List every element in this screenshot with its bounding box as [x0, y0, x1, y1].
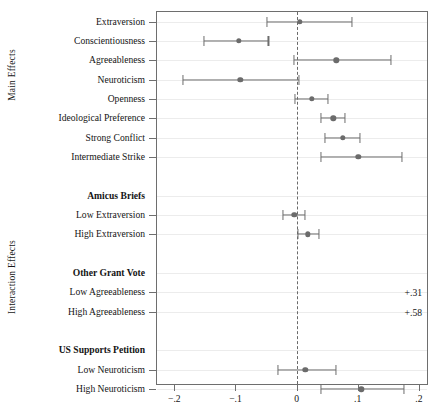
- confidence-interval-cap: [391, 55, 392, 65]
- category-tick: [149, 292, 156, 293]
- category-tick: [149, 389, 156, 390]
- row-label: Neuroticism: [0, 75, 145, 85]
- x-axis-tick-label: .2: [415, 393, 422, 404]
- confidence-interval-cap: [266, 17, 267, 27]
- row-label: High Extraversion: [0, 229, 145, 239]
- category-tick: [149, 118, 156, 119]
- confidence-interval-cap: [278, 365, 279, 375]
- confidence-interval-cap: [294, 94, 295, 104]
- gridline: [157, 41, 427, 42]
- x-axis-tick-label: −.2: [168, 393, 181, 404]
- zero-reference-line: [297, 12, 298, 384]
- gridline: [157, 312, 427, 313]
- confidence-interval-cap: [304, 210, 305, 220]
- category-tick: [149, 157, 156, 158]
- category-tick: [149, 312, 156, 313]
- x-axis-tick-label: .1: [354, 393, 361, 404]
- row-label: Intermediate Strike: [0, 152, 145, 162]
- category-tick: [149, 215, 156, 216]
- row-label: Ideological Preference: [0, 113, 145, 123]
- confidence-interval-cap: [283, 210, 284, 220]
- confidence-interval-cap: [182, 75, 183, 85]
- offscale-annotation: +.31: [405, 287, 422, 298]
- confidence-interval-cap: [360, 133, 361, 143]
- confidence-interval-cap: [404, 384, 405, 394]
- x-axis-tick: [297, 385, 298, 391]
- category-tick: [149, 234, 156, 235]
- confidence-interval-cap: [320, 113, 321, 123]
- confidence-interval-cap: [351, 17, 352, 27]
- row-label: Low Agreeableness: [0, 287, 145, 297]
- x-axis-tick: [174, 385, 175, 391]
- row-label: High Neuroticism: [0, 384, 145, 394]
- gridline: [157, 196, 427, 197]
- confidence-interval-line: [321, 156, 402, 157]
- gridline: [157, 350, 427, 351]
- x-axis-tick-label: −.1: [229, 393, 242, 404]
- gridline: [157, 118, 427, 119]
- category-tick: [149, 99, 156, 100]
- x-axis-tick: [419, 385, 420, 391]
- gridline: [157, 234, 427, 235]
- x-axis-tick: [358, 385, 359, 391]
- confidence-interval-line: [294, 60, 391, 61]
- row-label: Low Extraversion: [0, 210, 145, 220]
- row-label: Openness: [0, 94, 145, 104]
- confidence-interval-cap: [203, 36, 204, 46]
- section-heading: Amicus Briefs: [0, 191, 145, 201]
- estimate-point: [359, 386, 364, 391]
- category-tick: [149, 80, 156, 81]
- category-tick: [149, 370, 156, 371]
- offscale-annotation: +.58: [405, 306, 422, 317]
- category-tick: [149, 138, 156, 139]
- confidence-interval-cap: [298, 75, 299, 85]
- gridline: [157, 273, 427, 274]
- gridline: [157, 99, 427, 100]
- confidence-interval-cap: [268, 36, 269, 46]
- category-tick: [149, 41, 156, 42]
- category-tick: [149, 60, 156, 61]
- gridline: [157, 138, 427, 139]
- category-tick: [149, 22, 156, 23]
- confidence-interval-cap: [401, 152, 402, 162]
- confidence-interval-cap: [320, 152, 321, 162]
- confidence-interval-cap: [344, 113, 345, 123]
- x-axis-tick: [235, 385, 236, 391]
- row-label: Low Neuroticism: [0, 365, 145, 375]
- row-label: Conscientiousness: [0, 36, 145, 46]
- gridline: [157, 292, 427, 293]
- confidence-interval-cap: [318, 229, 319, 239]
- coefficient-plot: Main Effects Interaction Effects Extrave…: [0, 0, 442, 412]
- confidence-interval-cap: [328, 94, 329, 104]
- row-label: Extraversion: [0, 17, 145, 27]
- confidence-interval-cap: [294, 55, 295, 65]
- section-heading: Other Grant Vote: [0, 268, 145, 278]
- confidence-interval-cap: [325, 133, 326, 143]
- x-axis-tick-label: 0: [294, 393, 299, 404]
- confidence-interval-cap: [320, 384, 321, 394]
- row-label: Strong Conflict: [0, 133, 145, 143]
- row-label: Agreeableness: [0, 55, 145, 65]
- section-heading: US Supports Petition: [0, 345, 145, 355]
- plot-frame: [156, 11, 428, 385]
- confidence-interval-cap: [336, 365, 337, 375]
- confidence-interval-line: [267, 21, 352, 22]
- row-label: High Agreeableness: [0, 307, 145, 317]
